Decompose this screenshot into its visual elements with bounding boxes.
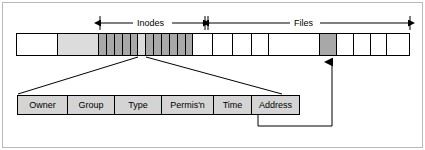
inode-field-label: Group <box>78 100 103 110</box>
inode-field-address: Address <box>252 96 299 114</box>
disk-layout-bar <box>16 33 410 56</box>
inodes-span-label: Inodes <box>137 18 164 28</box>
inode-field-label: Type <box>128 100 148 110</box>
disk-cell-file-block-10 <box>387 34 409 55</box>
disk-cell-boot-block <box>17 34 58 55</box>
inode-field-owner: Owner <box>18 96 68 114</box>
disk-cell-super-block <box>58 34 99 55</box>
disk-cell-file-block-4 <box>252 34 269 55</box>
inode-field-label: Address <box>259 100 292 110</box>
disk-cell-inode-7 <box>146 34 154 55</box>
disk-cell-inode-4 <box>123 34 131 55</box>
inode-file-layout-diagram: Inodes Files OwnerGroupTypePermis'nTimeA… <box>0 0 425 150</box>
inode-field-table: OwnerGroupTypePermis'nTimeAddress <box>17 95 300 115</box>
disk-cell-inode-2 <box>107 34 115 55</box>
inode-field-permissions: Permis'n <box>162 96 214 114</box>
disk-cell-file-block-1 <box>193 34 213 55</box>
address-to-block-pointer <box>258 62 332 126</box>
inode-field-label: Owner <box>29 100 56 110</box>
disk-cell-inode-12 <box>186 34 194 55</box>
inode-expansion-leaders <box>18 57 282 94</box>
disk-cell-file-block-9 <box>371 34 388 55</box>
disk-cell-file-block-2 <box>213 34 233 55</box>
connector-layer <box>0 0 425 150</box>
disk-cell-file-block-6-target <box>320 34 338 55</box>
disk-cell-inode-3 <box>115 34 123 55</box>
disk-cell-inode-11 <box>178 34 186 55</box>
files-span-label: Files <box>294 18 313 28</box>
disk-cell-file-block-8 <box>354 34 371 55</box>
disk-cell-file-block-5 <box>269 34 320 55</box>
inode-field-type: Type <box>115 96 162 114</box>
disk-cell-file-block-3 <box>233 34 253 55</box>
disk-cell-inode-9 <box>162 34 170 55</box>
disk-cell-inode-6-selected <box>138 34 146 55</box>
inode-field-group: Group <box>68 96 115 114</box>
inode-field-label: Permis'n <box>170 100 205 110</box>
inode-field-label: Time <box>223 100 243 110</box>
disk-cell-inode-8 <box>154 34 162 55</box>
disk-cell-inode-5 <box>131 34 139 55</box>
inode-field-time: Time <box>214 96 252 114</box>
disk-cell-inode-10 <box>170 34 178 55</box>
disk-cell-inode-1 <box>99 34 107 55</box>
disk-cell-file-block-7 <box>337 34 354 55</box>
